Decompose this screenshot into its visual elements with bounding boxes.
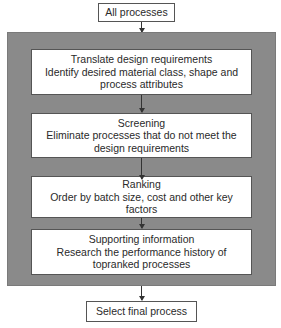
end-box-select-final-process: Select final process — [86, 301, 197, 322]
step-screening: Screening Eliminate processes that do no… — [31, 113, 252, 158]
step-line: topranked processes — [93, 258, 190, 271]
end-label: Select final process — [96, 305, 187, 318]
step-title: Translate design requirements — [71, 53, 212, 66]
step-line: Eliminate processes that do not meet the — [46, 129, 236, 142]
arrow-step1-to-step2 — [141, 95, 142, 112]
arrow-process-to-end — [141, 286, 142, 300]
arrow-step3-to-step4 — [141, 218, 142, 228]
arrow-start-to-process — [141, 22, 142, 32]
step-supporting-information: Supporting information Research the perf… — [31, 229, 252, 275]
step-translate-requirements: Translate design requirements Identify d… — [31, 49, 252, 95]
step-line: Research the performance history of — [57, 246, 227, 259]
start-label: All processes — [105, 6, 167, 19]
step-title: Ranking — [122, 178, 161, 191]
step-line: design requirements — [94, 142, 189, 155]
step-line: factors — [126, 203, 158, 216]
start-box-all-processes: All processes — [98, 3, 175, 22]
step-title: Supporting information — [89, 233, 195, 246]
step-line: process attributes — [100, 78, 183, 91]
step-title: Screening — [118, 117, 165, 130]
step-ranking: Ranking Order by batch size, cost and ot… — [31, 176, 252, 218]
step-line: Order by batch size, cost and other key — [50, 191, 233, 204]
arrow-step2-to-step3 — [141, 158, 142, 179]
step-line: Identify desired material class, shape a… — [45, 66, 238, 79]
